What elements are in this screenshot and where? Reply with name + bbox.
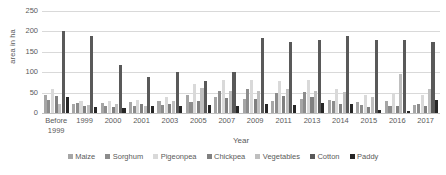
bar-pigeonpea (51, 89, 54, 113)
bar-vegetables (200, 88, 203, 113)
bar-paddy (350, 104, 353, 113)
bar-sorghum (246, 89, 249, 113)
bar-groups (42, 11, 440, 113)
bar-cotton (119, 65, 122, 113)
bar-group (241, 11, 269, 113)
bar-paddy (378, 110, 381, 113)
bar-paddy (265, 104, 268, 113)
x-tick-label: 2011 (269, 116, 297, 138)
bar-group (326, 11, 354, 113)
bar-maize (129, 102, 132, 113)
legend-item-paddy[interactable]: Paddy (350, 152, 379, 161)
legend-item-chickpea[interactable]: Chickpea (207, 152, 246, 161)
bar-pigeonpea (79, 101, 82, 113)
bar-cotton (204, 81, 207, 113)
bar-pigeonpea (136, 100, 139, 113)
legend-item-sorghum[interactable]: Sorghum (105, 152, 143, 161)
bar-cotton (375, 40, 378, 113)
bar-maize (413, 105, 416, 113)
x-tick-label: 2003 (156, 116, 184, 138)
bar-vegetables (314, 91, 317, 113)
y-tick-label: 250 (8, 7, 38, 15)
bar-paddy (94, 107, 97, 113)
bar-paddy (321, 103, 324, 113)
bar-paddy (208, 105, 211, 113)
bar-sorghum (218, 91, 221, 113)
bar-group (383, 11, 411, 113)
bar-sorghum (47, 100, 50, 113)
bar-chickpea (367, 107, 370, 113)
bar-pigeonpea (250, 80, 253, 113)
bar-group (269, 11, 297, 113)
legend-label: Chickpea (214, 152, 245, 161)
bar-sorghum (417, 104, 420, 113)
bar-pigeonpea (335, 89, 338, 113)
bar-vegetables (257, 91, 260, 113)
bar-chickpea (83, 106, 86, 113)
bar-maize (44, 95, 47, 113)
bar-vegetables (144, 106, 147, 113)
plot-area (42, 11, 440, 113)
bar-maize (157, 101, 160, 113)
bar-group (156, 11, 184, 113)
legend-item-vegetables[interactable]: Vegetables (255, 152, 300, 161)
bar-pigeonpea (165, 97, 168, 113)
bar-pigeonpea (222, 80, 225, 113)
bar-group (355, 11, 383, 113)
bar-maize (356, 102, 359, 113)
bar-paddy (435, 100, 438, 113)
bar-cotton (403, 40, 406, 113)
bar-group (127, 11, 155, 113)
bar-chickpea (225, 98, 228, 114)
bar-paddy (407, 111, 410, 113)
bar-sorghum (332, 101, 335, 113)
y-tick-label: 150 (8, 48, 38, 56)
legend-label: Vegetables (263, 152, 300, 161)
gridline (42, 113, 440, 114)
bar-sorghum (189, 102, 192, 113)
legend-item-cotton[interactable]: Cotton (310, 152, 340, 161)
bar-paddy (293, 105, 296, 113)
y-tick-label: 100 (8, 68, 38, 76)
bar-cotton (318, 40, 321, 113)
bar-vegetables (343, 92, 346, 113)
y-axis-tick-labels: 250200150100500 (4, 11, 38, 113)
bar-chickpea (310, 97, 313, 113)
bar-paddy (179, 106, 182, 113)
bar-paddy (122, 108, 125, 113)
x-tick-label: 2017 (411, 116, 439, 138)
bar-paddy (66, 97, 69, 113)
bar-vegetables (115, 104, 118, 113)
x-tick-label: 2016 (383, 116, 411, 138)
bar-sorghum (360, 105, 363, 113)
x-tick-label: 1999 (70, 116, 98, 138)
x-axis-tick-labels: Before 199919992000200120032005200720092… (42, 116, 440, 138)
bar-chickpea (140, 104, 143, 113)
legend-swatch-icon (105, 154, 110, 159)
bar-maize (186, 95, 189, 113)
bar-vegetables (229, 91, 232, 113)
bar-maize (271, 101, 274, 113)
bar-sorghum (76, 103, 79, 113)
bar-chickpea (168, 104, 171, 113)
bar-group (70, 11, 98, 113)
bar-pigeonpea (364, 95, 367, 113)
bar-sorghum (388, 106, 391, 113)
legend-label: Pigeonpea (161, 152, 197, 161)
bar-vegetables (286, 89, 289, 113)
legend-label: Cotton (317, 152, 339, 161)
bar-group (298, 11, 326, 113)
bar-group (411, 11, 439, 113)
legend-item-maize[interactable]: Maize (68, 152, 96, 161)
bar-pigeonpea (307, 80, 310, 113)
y-tick-label: 50 (8, 89, 38, 97)
bar-group (184, 11, 212, 113)
bar-cotton (261, 38, 264, 113)
bar-chickpea (396, 106, 399, 113)
bar-paddy (236, 106, 239, 113)
legend-item-pigeonpea[interactable]: Pigeonpea (153, 152, 196, 161)
x-axis-title: Year (42, 136, 440, 145)
bar-group (99, 11, 127, 113)
bar-chickpea (282, 96, 285, 113)
bar-vegetables (58, 104, 61, 113)
